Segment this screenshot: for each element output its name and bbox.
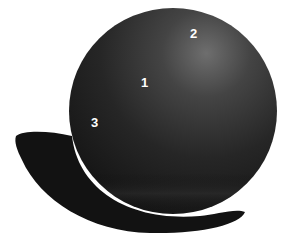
label-3-core-shadow: 3 bbox=[91, 116, 98, 129]
sphere-reflected-light bbox=[69, 8, 277, 214]
label-2-highlight: 2 bbox=[190, 27, 197, 40]
sphere-illustration bbox=[0, 0, 292, 243]
label-1-halftone: 1 bbox=[141, 76, 148, 89]
